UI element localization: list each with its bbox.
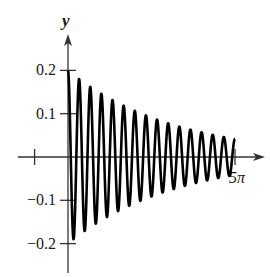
damped-cosine-series: [68, 70, 235, 239]
y-axis-label: y: [60, 11, 70, 30]
y-tick-label: 0.2: [36, 61, 56, 78]
y-tick-label: −0.2: [27, 235, 56, 252]
y-tick-label: −0.1: [27, 191, 56, 208]
damped-oscillation-chart: 0.20.1−0.1−0.25π y t: [0, 0, 270, 277]
y-tick-label: 0.1: [36, 105, 56, 122]
